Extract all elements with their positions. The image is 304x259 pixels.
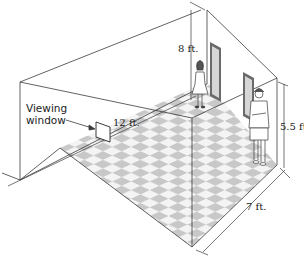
viewing-window-label-line2: window bbox=[26, 114, 66, 126]
length-label: 12 ft. bbox=[113, 117, 140, 128]
room-svg: Viewing window 12 ft. 8 ft. 5.5 ft. 7 ft… bbox=[0, 0, 304, 259]
room-diagram: Viewing window 12 ft. 8 ft. 5.5 ft. 7 ft… bbox=[0, 0, 304, 259]
person-height-label: 5.5 ft. bbox=[280, 121, 304, 132]
painting-1 bbox=[210, 42, 221, 102]
window-arrow bbox=[66, 120, 95, 130]
height-label: 8 ft. bbox=[178, 43, 198, 54]
width-label: 7 ft. bbox=[246, 201, 266, 212]
viewing-window-label-line1: Viewing bbox=[26, 102, 67, 114]
